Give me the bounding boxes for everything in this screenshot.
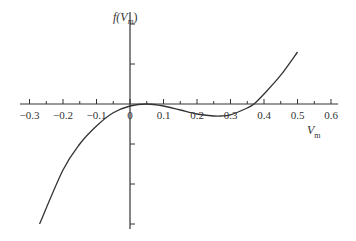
x-tick-label: −0.2 — [53, 109, 73, 121]
x-tick-label: −0.1 — [87, 109, 107, 121]
x-tick-labels: −0.3−0.2−0.100.10.20.30.40.50.6 — [20, 109, 339, 121]
x-axis-label: Vm — [307, 123, 321, 140]
x-tick-label: 0.3 — [224, 109, 238, 121]
x-tick-label: 0 — [127, 109, 133, 121]
x-tick-label: 0.4 — [257, 109, 271, 121]
x-tick-label: 0.6 — [324, 109, 338, 121]
x-tick-label: 0.1 — [157, 109, 171, 121]
x-tick-label: 0.5 — [291, 109, 305, 121]
x-tick-label: 0.2 — [190, 109, 204, 121]
data-curve — [40, 52, 298, 224]
line-chart: −0.3−0.2−0.100.10.20.30.40.50.6 f(Vm) Vm — [0, 0, 356, 241]
y-axis-label: f(Vm) — [113, 10, 137, 26]
x-tick-label: −0.3 — [20, 109, 40, 121]
chart-container: −0.3−0.2−0.100.10.20.30.40.50.6 f(Vm) Vm — [0, 0, 356, 241]
